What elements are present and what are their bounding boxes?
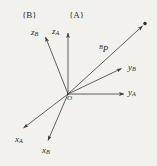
vector-label-bp: BP [99, 44, 108, 54]
point-marker-p [143, 22, 146, 25]
axis-label-z-a-subscript: A [56, 29, 60, 36]
frame-label-a: {A} [69, 11, 84, 20]
axis-line-y-b [68, 69, 122, 95]
axis-label-x-a: xA [15, 135, 23, 145]
axis-label-y-a: yA [128, 88, 136, 98]
axis-label-z-b-subscript: B [35, 30, 39, 37]
vector-line-bp [68, 26, 143, 94]
origin-label: O [67, 95, 72, 102]
axis-label-x-b: xB [42, 146, 50, 156]
axis-line-x-a [24, 94, 69, 128]
vector-label-base: P [103, 44, 109, 54]
coordinate-frame-figure: {B} {A} zB zA yB yA xA xB BP O [0, 0, 157, 166]
axis-label-z-a: zA [52, 27, 59, 37]
axis-label-x-a-subscript: A [19, 137, 23, 144]
frame-label-b: {B} [22, 11, 37, 20]
axis-label-y-a-subscript: A [132, 90, 136, 97]
axis-label-x-b-subscript: B [46, 148, 50, 155]
axis-label-y-b: yB [128, 63, 136, 73]
figure-vector-graphics [0, 0, 157, 166]
axis-label-y-b-subscript: B [132, 65, 136, 72]
axis-line-x-b [48, 94, 68, 141]
axis-line-z-b [46, 37, 69, 94]
axis-label-z-b: zB [31, 28, 38, 38]
